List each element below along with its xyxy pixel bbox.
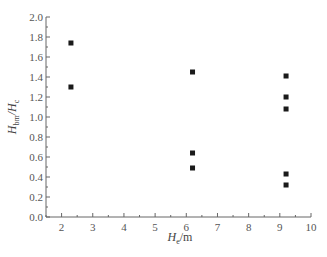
data-point-square: [284, 74, 289, 79]
y-tick-label: 0.6: [29, 151, 43, 163]
y-axis-title: Hbm/Hc: [5, 99, 21, 135]
y-tick-label: 1.8: [29, 31, 43, 43]
x-tick-label: 5: [152, 221, 158, 233]
x-tick-label: 3: [90, 221, 96, 233]
x-tick-label: 8: [246, 221, 252, 233]
data-point-square: [68, 41, 73, 46]
data-point-square: [190, 70, 195, 75]
x-tick-label: 10: [306, 221, 318, 233]
x-tick-label: 2: [59, 221, 65, 233]
data-points: [68, 41, 288, 188]
x-tick-label: 9: [277, 221, 283, 233]
data-point-square: [284, 172, 289, 177]
scatter-chart: 0.00.20.40.60.81.01.21.41.61.82.0 234567…: [0, 0, 327, 257]
y-tick-label: 1.6: [29, 51, 43, 63]
data-point-square: [284, 183, 289, 188]
y-tick-label: 1.0: [29, 111, 43, 123]
data-point-square: [284, 95, 289, 100]
data-point-square: [190, 166, 195, 171]
x-tick-label: 7: [215, 221, 221, 233]
y-tick-label: 0.0: [29, 211, 43, 223]
x-axis-title: He/m: [167, 230, 194, 246]
data-point-square: [68, 85, 73, 90]
y-axis-ticks: 0.00.20.40.60.81.01.21.41.61.82.0: [29, 11, 50, 223]
x-tick-label: 4: [121, 221, 127, 233]
y-tick-label: 2.0: [29, 11, 43, 23]
y-tick-label: 1.4: [29, 71, 43, 83]
y-tick-label: 0.2: [29, 191, 43, 203]
y-tick-label: 0.8: [29, 131, 43, 143]
axes: [46, 17, 311, 217]
data-point-square: [190, 151, 195, 156]
data-point-square: [284, 107, 289, 112]
y-tick-label: 0.4: [29, 171, 43, 183]
y-tick-label: 1.2: [29, 91, 43, 103]
